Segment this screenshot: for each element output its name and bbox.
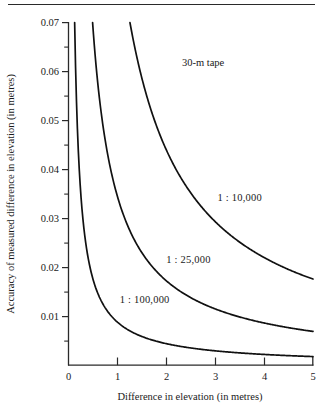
y-tick-label: 0.03 (41, 213, 59, 224)
y-tick-label: 0.05 (41, 115, 59, 126)
y-tick-label: 0.06 (41, 66, 59, 77)
y-tick-label: 0.07 (41, 17, 59, 28)
curve-1100000 (75, 23, 313, 357)
x-tick-label: 2 (164, 371, 169, 382)
y-tick-label: 0.02 (41, 262, 59, 273)
chart-canvas: 0.07 0.06 0.05 0.04 0.03 0.02 0.01 0 1 2… (0, 0, 323, 409)
chart-figure: 0.07 0.06 0.05 0.04 0.03 0.02 0.01 0 1 2… (0, 0, 323, 409)
y-axis-major-ticks (62, 23, 69, 317)
curve-label-10k: 1 : 10,000 (218, 192, 262, 203)
x-tick-label: 3 (213, 371, 218, 382)
x-axis-major-ticks (118, 358, 265, 366)
curve-label-25k: 1 : 25,000 (166, 254, 210, 265)
y-tick-label: 0.04 (41, 164, 60, 175)
x-tick-label: 0 (66, 371, 71, 382)
x-tick-label: 1 (115, 371, 120, 382)
y-tick-label: 0.01 (41, 311, 59, 322)
x-tick-label: 4 (262, 371, 268, 382)
y-axis-title: Accuracy of measured difference in eleva… (5, 74, 17, 314)
data-curves-group (75, 23, 313, 357)
x-axis-tick-labels: 0 1 2 3 4 5 (66, 371, 316, 382)
y-axis-tick-labels: 0.07 0.06 0.05 0.04 0.03 0.02 0.01 (41, 17, 60, 322)
curve-125000 (93, 23, 313, 332)
curve-labels: 1 : 10,000 1 : 25,000 1 : 100,000 (120, 192, 262, 304)
curve-label-100k: 1 : 100,000 (120, 294, 170, 305)
tape-annotation: 30-m tape (182, 57, 225, 68)
x-tick-label: 5 (310, 371, 315, 382)
x-axis-title: Difference in elevation (in metres) (118, 391, 263, 403)
